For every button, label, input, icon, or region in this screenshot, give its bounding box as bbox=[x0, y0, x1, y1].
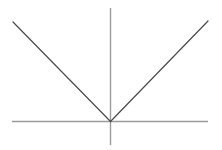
absolute-value-plot-figure bbox=[0, 0, 222, 150]
plot-canvas bbox=[0, 0, 222, 150]
